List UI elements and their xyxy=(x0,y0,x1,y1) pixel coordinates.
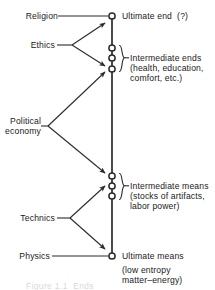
figure-canvas: Religion Ethics Political economy Techni… xyxy=(0,0,215,290)
node-int-means-2[interactable] xyxy=(109,183,115,189)
connector-technics-to-intermediate-means xyxy=(70,186,105,218)
node-int-end-2[interactable] xyxy=(109,55,115,61)
label-technics: Technics xyxy=(0,213,55,223)
connector-political-economy-to-intermediate-ends xyxy=(48,72,105,126)
label-intermediate-ends-detail: (health, education, comfort, etc.) xyxy=(130,63,215,83)
label-intermediate-ends-heading: Intermediate ends xyxy=(130,53,215,63)
node-ultimate-end[interactable] xyxy=(109,13,115,19)
label-physics: Physics xyxy=(0,251,50,261)
label-political-economy: Political economy xyxy=(0,116,41,136)
connector-ethics-to-ultimate-end xyxy=(72,23,105,45)
connector-ethics-to-intermediate-ends xyxy=(72,45,105,66)
connector-political-economy-to-intermediate-means xyxy=(48,126,105,173)
node-ultimate-means[interactable] xyxy=(109,253,115,259)
brace-intermediate-ends xyxy=(120,46,125,72)
label-religion: Religion xyxy=(0,11,58,21)
label-ultimate-means-detail: (low entropy matter–energy) xyxy=(122,265,215,285)
label-intermediate-means-heading: Intermediate means xyxy=(130,181,215,191)
label-intermediate-means-detail: (stocks of artifacts, labor power) xyxy=(130,191,215,211)
label-ultimate-end: Ultimate end (?) xyxy=(122,11,215,21)
brace-intermediate-means xyxy=(120,174,125,200)
label-ethics: Ethics xyxy=(0,40,55,50)
label-ultimate-means-heading: Ultimate means xyxy=(122,251,215,261)
node-int-means-3[interactable] xyxy=(109,193,115,199)
node-int-means-1[interactable] xyxy=(109,173,115,179)
connector-technics-to-ultimate-means xyxy=(70,218,105,249)
figure-caption-ghost: Figure 1.1 Ends xyxy=(26,281,94,290)
node-int-end-3[interactable] xyxy=(109,66,115,72)
node-int-end-1[interactable] xyxy=(109,45,115,51)
